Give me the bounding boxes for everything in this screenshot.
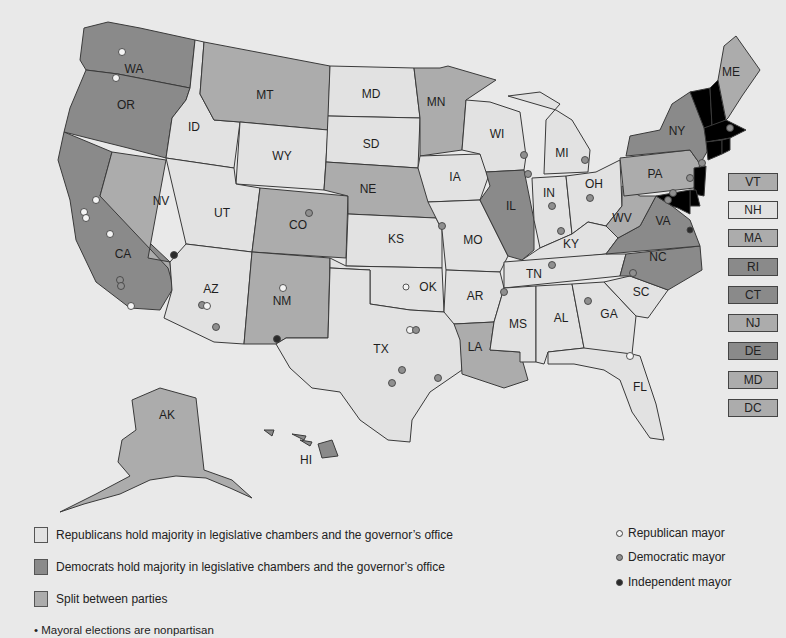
democrat-swatch	[34, 559, 48, 575]
label-FL: FL	[633, 380, 647, 394]
state-box-label: DE	[745, 344, 762, 358]
label-WA: WA	[125, 62, 144, 76]
democratic-mayor-marker	[727, 125, 734, 132]
label-TN: TN	[526, 267, 542, 281]
democratic-mayor-marker	[582, 157, 589, 164]
democratic-mayor-marker	[399, 367, 406, 374]
democratic-mayor-marker	[525, 171, 532, 178]
label-NM: NM	[273, 294, 292, 308]
republican-mayor-marker	[107, 231, 114, 238]
state-HI-islands	[264, 430, 312, 446]
state-box-label: DC	[744, 401, 761, 415]
independent-mayor-marker	[171, 252, 178, 259]
republican-mayor-marker	[128, 303, 135, 310]
state-box-RI[interactable]: RI	[728, 258, 778, 276]
democratic-mayor-marker	[549, 203, 556, 210]
legend-item-democrat: Democrats hold majority in legislative c…	[34, 559, 445, 575]
state-RI[interactable]	[722, 138, 730, 154]
republican-mayor-icon	[616, 530, 623, 537]
label-MO: MO	[463, 233, 482, 247]
democratic-mayor-icon	[616, 554, 623, 561]
republican-mayor-marker	[83, 215, 90, 222]
state-CT[interactable]	[706, 140, 722, 160]
label-OR: OR	[117, 98, 135, 112]
republican-mayor-marker	[204, 303, 211, 310]
democratic-mayor-marker	[585, 298, 592, 305]
label-VA: VA	[655, 214, 670, 228]
independent-mayor-marker	[274, 336, 281, 343]
legend-label: Independent mayor	[628, 575, 731, 589]
state-box-DC[interactable]: DC	[728, 399, 778, 417]
label-SD: SD	[363, 137, 380, 151]
state-box-label: CT	[745, 288, 761, 302]
legend-item-republican-mayor: Republican mayor	[616, 526, 725, 540]
state-box-label: NJ	[746, 316, 761, 330]
label-MS: MS	[509, 317, 527, 331]
label-TX: TX	[373, 342, 388, 356]
legend-item-democratic-mayor: Democratic mayor	[616, 550, 725, 564]
state-box-VT[interactable]: VT	[728, 173, 778, 191]
democratic-mayor-marker	[699, 160, 706, 167]
label-KY: KY	[563, 237, 579, 251]
state-box-label: NH	[744, 203, 761, 217]
label-WV: WV	[612, 211, 631, 225]
state-box-NJ[interactable]: NJ	[728, 314, 778, 332]
state-box-DE[interactable]: DE	[728, 342, 778, 360]
democratic-mayor-marker	[439, 223, 446, 230]
republican-mayor-marker	[119, 49, 126, 56]
state-AK[interactable]	[60, 388, 252, 512]
legend-item-independent-mayor: Independent mayor	[616, 575, 731, 589]
label-AZ: AZ	[203, 282, 218, 296]
split-swatch	[34, 591, 48, 607]
republican-swatch	[34, 527, 48, 543]
label-ND: MD	[362, 87, 381, 101]
state-HI[interactable]	[318, 440, 338, 458]
democratic-mayor-marker	[435, 375, 442, 382]
republican-mayor-marker	[280, 285, 287, 292]
legend-item-republican: Republicans hold majority in legislative…	[34, 527, 453, 543]
label-GA: GA	[600, 307, 617, 321]
label-MT: MT	[256, 88, 274, 102]
label-UT: UT	[214, 206, 231, 220]
label-MN: MN	[427, 95, 446, 109]
legend-label: Democrats hold majority in legislative c…	[56, 560, 445, 574]
state-box-NH[interactable]: NH	[728, 201, 778, 219]
label-NC: NC	[649, 250, 667, 264]
republican-mayor-marker	[627, 353, 634, 360]
democratic-mayor-marker	[118, 283, 125, 290]
democratic-mayor-marker	[630, 270, 637, 277]
state-box-CT[interactable]: CT	[728, 286, 778, 304]
label-PA: PA	[647, 167, 662, 181]
democratic-mayor-marker	[549, 262, 556, 269]
democratic-mayor-marker	[413, 327, 420, 334]
independent-mayor-marker	[687, 227, 693, 233]
democratic-mayor-marker	[501, 289, 508, 296]
label-IN: IN	[543, 186, 555, 200]
label-HI: HI	[300, 453, 312, 467]
state-MT[interactable]	[200, 42, 330, 130]
label-CO: CO	[289, 218, 307, 232]
state-box-label: MA	[744, 231, 762, 245]
democratic-mayor-marker	[587, 195, 594, 202]
state-box-label: VT	[745, 175, 760, 189]
republican-mayor-marker	[93, 197, 100, 204]
legend-label: Republicans hold majority in legislative…	[56, 528, 453, 542]
democratic-mayor-marker	[558, 228, 565, 235]
label-OH: OH	[585, 177, 603, 191]
label-KS: KS	[388, 232, 404, 246]
state-box-MD[interactable]: MD	[728, 371, 778, 389]
label-NY: NY	[669, 124, 686, 138]
label-LA: LA	[468, 340, 483, 354]
democratic-mayor-marker	[687, 175, 694, 182]
democratic-mayor-marker	[389, 380, 396, 387]
label-WY: WY	[272, 149, 291, 163]
legend-label: Split between parties	[56, 592, 167, 606]
label-AL: AL	[554, 311, 569, 325]
state-box-label: RI	[747, 260, 759, 274]
label-NE: NE	[360, 182, 377, 196]
label-ID: ID	[188, 120, 200, 134]
state-box-MA[interactable]: MA	[728, 229, 778, 247]
democratic-mayor-marker	[306, 210, 313, 217]
republican-mayor-marker	[113, 75, 120, 82]
independent-mayor-icon	[616, 579, 623, 586]
